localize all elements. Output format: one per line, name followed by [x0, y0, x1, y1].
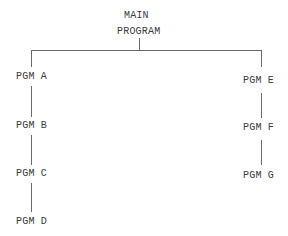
connector-f-g — [261, 140, 262, 165]
node-pgm-f: PGM F — [243, 123, 274, 133]
connector-b-c — [31, 135, 32, 165]
node-pgm-g: PGM G — [243, 171, 274, 181]
horizontal-branch-line — [31, 50, 262, 51]
connector-e-f — [261, 93, 262, 118]
program-hierarchy-diagram: MAIN PROGRAM PGM A PGM B PGM C PGM D PGM… — [0, 0, 288, 236]
root-node-line1: MAIN — [124, 11, 149, 21]
left-branch-drop-line — [31, 50, 32, 67]
right-branch-drop-line — [261, 50, 262, 67]
node-pgm-d: PGM D — [16, 217, 47, 227]
node-pgm-a: PGM A — [16, 72, 47, 82]
node-pgm-b: PGM B — [16, 121, 47, 131]
root-node-line2: PROGRAM — [117, 27, 160, 37]
node-pgm-e: PGM E — [243, 76, 274, 86]
node-pgm-c: PGM C — [16, 169, 47, 179]
connector-a-b — [31, 86, 32, 117]
connector-c-d — [31, 183, 32, 212]
